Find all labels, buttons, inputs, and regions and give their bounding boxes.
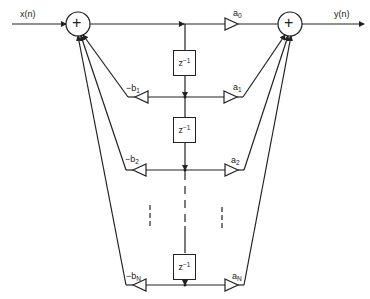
gain-b1-label: −b1	[126, 84, 140, 95]
gain-a1-label: a1	[233, 83, 242, 94]
delay-box-2: z−1	[173, 117, 196, 143]
gain-an-label: aN	[232, 272, 242, 283]
delay-box-n: z−1	[173, 254, 196, 280]
gain-a2-label: a2	[231, 156, 240, 167]
left-adder-plus: +	[72, 15, 81, 31]
output-label: y(n)	[334, 10, 350, 19]
delay-box-1: z−1	[173, 50, 196, 76]
right-adder-plus: +	[284, 15, 293, 31]
gain-b2-label: −b2	[125, 155, 139, 166]
gain-a0-label: a0	[233, 9, 242, 20]
input-label: x(n)	[20, 10, 36, 19]
gain-bn-label: −bN	[126, 272, 141, 283]
iir-filter-diagram: + + x(n) y(n) z−1 z−1 z−1 a0 a1 a2 aN −b…	[0, 0, 370, 299]
